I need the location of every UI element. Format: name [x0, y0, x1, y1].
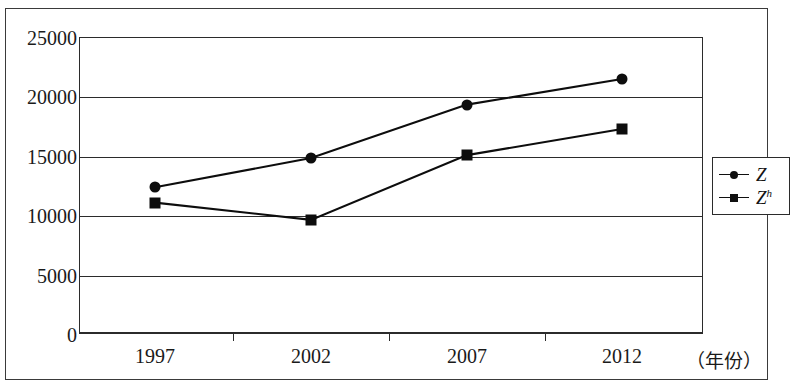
- gridline-20000: [80, 97, 702, 98]
- legend-label-z: Z: [749, 165, 767, 184]
- data-point-Zh-2002: [306, 214, 317, 225]
- data-point-Z-2002: [306, 153, 317, 164]
- gridline-10000: [80, 216, 702, 217]
- legend-item-zh: Zh: [719, 186, 783, 209]
- x-tick-mark-1: [233, 334, 234, 341]
- x-tick-label-2007: 2007: [447, 345, 487, 368]
- legend-marker-circle-icon: [719, 169, 749, 181]
- x-axis-title: （年份）: [686, 346, 762, 373]
- data-point-Z-2012: [617, 74, 628, 85]
- x-tick-label-2002: 2002: [291, 345, 331, 368]
- plot-area: [79, 37, 703, 334]
- y-tick-label-15000: 15000: [5, 146, 77, 169]
- chart-page: 25000 20000 15000 10000 5000 0 1997 2002…: [0, 0, 798, 389]
- legend-item-z: Z: [719, 163, 783, 186]
- data-point-Zh-1997: [150, 197, 161, 208]
- data-point-Zh-2012: [617, 123, 628, 134]
- x-tick-label-2012: 2012: [602, 345, 642, 368]
- data-point-Zh-2007: [462, 150, 473, 161]
- legend-marker-square-icon: [719, 192, 749, 204]
- y-tick-label-0: 0: [5, 324, 77, 347]
- x-tick-label-1997: 1997: [135, 345, 175, 368]
- data-point-Z-2007: [462, 99, 473, 110]
- y-tick-label-20000: 20000: [5, 86, 77, 109]
- gridline-5000: [80, 276, 702, 277]
- y-tick-label-5000: 5000: [5, 265, 77, 288]
- x-tick-mark-3: [545, 334, 546, 341]
- y-tick-label-10000: 10000: [5, 205, 77, 228]
- gridline-15000: [80, 157, 702, 158]
- legend-label-zh: Zh: [749, 188, 772, 207]
- legend: Z Zh: [712, 157, 790, 215]
- x-tick-mark-2: [389, 334, 390, 341]
- data-point-Z-1997: [150, 182, 161, 193]
- y-tick-label-25000: 25000: [5, 27, 77, 50]
